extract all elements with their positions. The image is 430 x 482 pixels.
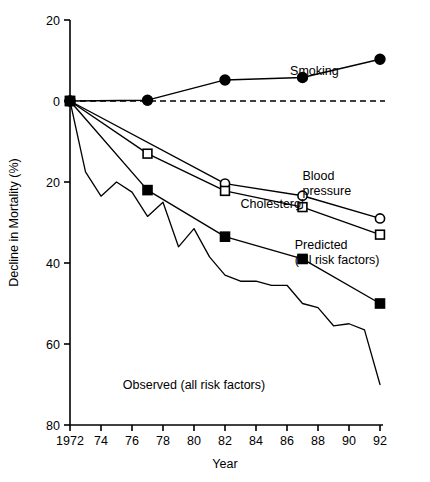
x-tick-label: 86 [280, 434, 294, 448]
data-point-marker [375, 54, 385, 64]
y-axis-title: Decline in Mortality (%) [7, 158, 21, 287]
x-tick-label: 74 [94, 434, 108, 448]
series-blood-pressure [65, 96, 384, 223]
x-tick-label: 92 [373, 434, 387, 448]
x-tick-label: 1972 [56, 434, 84, 448]
series-line [70, 101, 380, 218]
x-tick-label: 88 [311, 434, 325, 448]
data-point-marker [221, 187, 230, 196]
data-point-marker [220, 75, 230, 85]
mortality-decline-line-chart: SmokingBloodpressureCholesterolPredicted… [0, 0, 430, 482]
series-label-observed-all-risk-factors: Observed (all risk factors) [123, 378, 265, 392]
series-layer [65, 54, 385, 384]
data-point-marker [220, 232, 229, 241]
series-line [70, 101, 380, 235]
y-tick-label: 80 [46, 419, 60, 433]
series-label-smoking: Smoking [290, 64, 339, 78]
x-tick-label: 82 [218, 434, 232, 448]
data-point-marker [375, 214, 384, 223]
y-tick-label: 0 [53, 95, 60, 109]
series-smoking [65, 54, 385, 106]
series-line [70, 101, 380, 304]
series-label-line2: (all risk factors) [295, 253, 380, 267]
y-tick-label: 40 [46, 257, 60, 271]
y-tick-label: 20 [46, 176, 60, 190]
series-label-predicted-all-risk-factors: Predicted [295, 238, 348, 252]
data-point-marker [376, 230, 385, 239]
series-cholesterol [66, 97, 385, 239]
y-tick-label: 60 [46, 338, 60, 352]
x-tick-label: 84 [249, 434, 263, 448]
series-label-blood-pressure: Blood [303, 169, 335, 183]
series-label-line2: pressure [303, 184, 352, 198]
y-tick-label: 20 [46, 14, 60, 28]
chart-container: SmokingBloodpressureCholesterolPredicted… [0, 0, 430, 482]
x-tick-label: 90 [342, 434, 356, 448]
data-point-marker [143, 186, 152, 195]
series-label-cholesterol: Cholesterol [241, 197, 304, 211]
axis-titles-layer: YearDecline in Mortality (%) [7, 158, 238, 471]
x-tick-label: 76 [125, 434, 139, 448]
x-tick-label: 80 [187, 434, 201, 448]
data-point-marker [375, 299, 384, 308]
x-axis-title: Year [212, 457, 237, 471]
series-predicted-all-risk-factors [65, 96, 384, 308]
x-tick-label: 78 [156, 434, 170, 448]
series-labels-layer: SmokingBloodpressureCholesterolPredicted… [123, 64, 380, 392]
data-point-marker [143, 149, 152, 158]
data-point-marker [143, 95, 153, 105]
